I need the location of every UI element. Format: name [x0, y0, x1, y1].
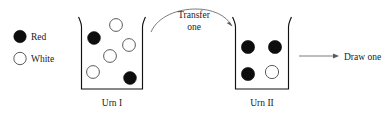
- urn-2-label: Urn II: [250, 98, 273, 108]
- urn-1-ball-red-2: [124, 72, 137, 85]
- urn-2-group: Urn II: [233, 17, 292, 108]
- urn-1-ball-white-4: [87, 66, 100, 79]
- draw-label: Draw one: [344, 52, 381, 62]
- urn-1-ball-red-1: [88, 32, 101, 45]
- urns-diagram: Red White Urn I Transfer one: [0, 0, 392, 122]
- legend: Red White: [14, 30, 54, 64]
- transfer-label-line-2: one: [187, 22, 201, 32]
- urn-2-ball-white-1: [265, 65, 278, 78]
- diagram-canvas: Red White Urn I Transfer one: [0, 0, 392, 122]
- urn-2-ball-red-2: [268, 40, 281, 53]
- urn-1-ball-white-2: [123, 39, 136, 52]
- transfer-curved-arrow-head-icon: [227, 22, 233, 27]
- transfer-annotation: Transfer one: [151, 9, 232, 32]
- legend-label-red: Red: [31, 32, 47, 42]
- urn-1-group: Urn I: [79, 17, 146, 108]
- urn-1-ball-white-3: [104, 50, 117, 63]
- urn-2-balls: [241, 40, 281, 80]
- legend-label-white: White: [31, 54, 54, 64]
- legend-red-swatch-filled-circle-icon: [14, 30, 26, 42]
- urn-1-label: Urn I: [102, 98, 122, 108]
- urn-2-ball-red-3: [241, 67, 254, 80]
- urn-2-vessel: [233, 17, 292, 89]
- legend-white-swatch-open-circle-icon: [14, 52, 26, 64]
- urn-1-balls: [87, 19, 137, 85]
- urn-1-ball-white-1: [110, 19, 123, 32]
- transfer-label-line-1: Transfer: [178, 10, 211, 20]
- urn-2-ball-red-1: [241, 40, 254, 53]
- draw-annotation: Draw one: [299, 52, 381, 62]
- draw-arrow-head-icon: [333, 53, 339, 58]
